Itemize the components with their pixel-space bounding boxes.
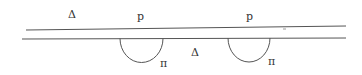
diagram-canvas: Δ p p Δ π π xyxy=(0,0,362,75)
lower-line xyxy=(22,38,346,39)
pi-right-label: π xyxy=(268,56,275,67)
pi-left-label: π xyxy=(160,58,167,69)
delta-top-label: Δ xyxy=(68,9,76,20)
p-left-label: p xyxy=(137,11,144,22)
delta-bottom-label: Δ xyxy=(191,47,199,58)
upper-line xyxy=(26,26,346,30)
left-semicircle xyxy=(120,39,163,63)
p-right-label: p xyxy=(246,11,253,22)
diagram-graphics xyxy=(0,0,362,75)
right-semicircle xyxy=(228,38,270,62)
